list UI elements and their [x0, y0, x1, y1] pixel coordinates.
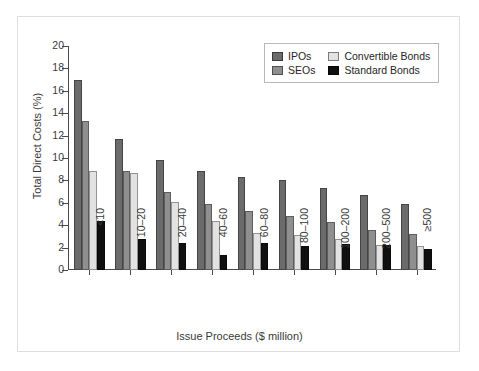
- y-tick-label: 6: [58, 196, 64, 208]
- bar: [205, 204, 213, 270]
- legend-table: IPOs Convertible Bonds SEOs Standard Bon…: [272, 49, 430, 77]
- chart-figure: Total Direct Costs (%) 02468101214161820…: [0, 0, 479, 371]
- y-tick-label: 12: [52, 129, 64, 141]
- legend-spacer: [315, 63, 328, 77]
- x-axis-title: Issue Proceeds ($ million): [0, 330, 479, 342]
- bar: [401, 204, 409, 270]
- bar: [156, 160, 164, 270]
- x-tick-label: 20–40: [176, 208, 188, 278]
- y-tick-label: 16: [52, 84, 64, 96]
- bar: [286, 216, 294, 270]
- bar: [409, 234, 417, 270]
- legend-spacer: [315, 49, 328, 63]
- y-tick-label: 4: [58, 218, 64, 230]
- y-tick-label: 14: [52, 106, 64, 118]
- bar: [123, 171, 131, 270]
- legend-swatch-ipos-icon: [272, 52, 283, 61]
- legend-swatch-seos-icon: [272, 66, 283, 75]
- x-tick-mark: [417, 270, 418, 275]
- x-tick-label: <10: [94, 208, 106, 278]
- x-tick-label: 100–200: [339, 208, 351, 278]
- x-tick-mark: [376, 270, 377, 275]
- legend-label-standard-bonds: Standard Bonds: [344, 64, 419, 76]
- x-tick-mark: [253, 270, 254, 275]
- legend-row: SEOs Standard Bonds: [272, 63, 430, 77]
- bar: [279, 180, 287, 270]
- x-tick-label: 40–60: [217, 208, 229, 278]
- y-tick-label: 0: [58, 263, 64, 275]
- y-tick-label: 2: [58, 241, 64, 253]
- legend-label-ipos: IPOs: [288, 50, 311, 62]
- x-tick-mark: [294, 270, 295, 275]
- x-tick-mark: [171, 270, 172, 275]
- x-tick-mark: [89, 270, 90, 275]
- legend-swatch-convertible-bonds-icon: [328, 52, 339, 61]
- y-axis-line: [68, 46, 69, 270]
- x-tick-mark: [335, 270, 336, 275]
- legend-item-ipos: IPOs: [272, 49, 315, 63]
- bar: [164, 192, 172, 270]
- y-tick-label: 8: [58, 173, 64, 185]
- legend-swatch-standard-bonds-icon: [328, 66, 339, 75]
- bar: [197, 171, 205, 270]
- chart-legend: IPOs Convertible Bonds SEOs Standard Bon…: [264, 43, 439, 83]
- x-tick-mark: [212, 270, 213, 275]
- bar: [74, 80, 82, 270]
- y-tick-label: 18: [52, 61, 64, 73]
- y-tick-label: 10: [52, 151, 64, 163]
- x-tick-mark: [130, 270, 131, 275]
- x-tick-label: 10–20: [135, 208, 147, 278]
- legend-item-standard-bonds: Standard Bonds: [328, 63, 430, 77]
- x-tick-label: ≥500: [421, 208, 433, 278]
- x-tick-label: 60–80: [258, 208, 270, 278]
- bar: [238, 177, 246, 270]
- legend-row: IPOs Convertible Bonds: [272, 49, 430, 63]
- bar: [360, 195, 368, 270]
- legend-item-seos: SEOs: [272, 63, 315, 77]
- legend-label-seos: SEOs: [288, 64, 315, 76]
- x-tick-label: 80–100: [298, 208, 310, 278]
- y-axis-title: Total Direct Costs (%): [31, 46, 43, 246]
- x-tick-label: 200–500: [380, 208, 392, 278]
- bar: [82, 121, 90, 270]
- y-tick-label: 20: [52, 39, 64, 51]
- bar: [327, 222, 335, 270]
- legend-label-convertible-bonds: Convertible Bonds: [344, 50, 430, 62]
- bar: [368, 230, 376, 270]
- bar: [320, 188, 328, 270]
- bar: [115, 139, 123, 270]
- bar: [245, 211, 253, 270]
- legend-item-convertible-bonds: Convertible Bonds: [328, 49, 430, 63]
